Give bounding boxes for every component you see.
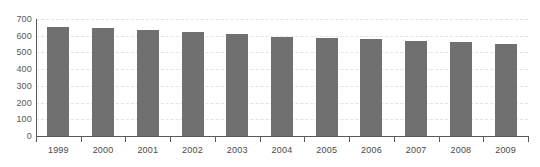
x-tick-label-1999: 1999 [36, 145, 81, 155]
x-tick [260, 136, 261, 142]
x-tick-label-2007: 2007 [394, 145, 439, 155]
x-tick [36, 136, 37, 142]
x-tick [528, 136, 529, 142]
x-axis-line [36, 136, 528, 137]
y-axis-line [36, 19, 37, 136]
x-tick-label-2009: 2009 [483, 145, 528, 155]
y-tick-label: 200 [0, 98, 32, 108]
y-tick-label: 0 [0, 131, 32, 141]
x-tick [349, 136, 350, 142]
y-tick-label: 500 [0, 47, 32, 57]
x-tick [215, 136, 216, 142]
plot-area [36, 19, 528, 136]
bar-chart: 0100200300400500600700 19992000200120022… [0, 0, 540, 167]
y-tick-label: 600 [0, 31, 32, 41]
bar-2008[interactable] [450, 42, 472, 136]
x-tick-label-2006: 2006 [349, 145, 394, 155]
x-tick [125, 136, 126, 142]
bar-2001[interactable] [137, 30, 159, 136]
y-tick-label: 400 [0, 64, 32, 74]
x-tick [439, 136, 440, 142]
x-tick-label-2000: 2000 [81, 145, 126, 155]
x-tick [304, 136, 305, 142]
x-tick-label-2003: 2003 [215, 145, 260, 155]
x-tick-label-2008: 2008 [439, 145, 484, 155]
bar-2006[interactable] [360, 39, 382, 136]
x-tick [483, 136, 484, 142]
x-tick-label-2002: 2002 [170, 145, 215, 155]
bar-2004[interactable] [271, 37, 293, 136]
x-tick-label-2004: 2004 [260, 145, 305, 155]
bar-series [36, 19, 528, 136]
bar-1999[interactable] [47, 27, 69, 136]
x-tick [394, 136, 395, 142]
x-tick [81, 136, 82, 142]
bar-2002[interactable] [182, 32, 204, 136]
y-tick-label: 300 [0, 81, 32, 91]
bar-2007[interactable] [405, 41, 427, 136]
x-tick-label-2001: 2001 [125, 145, 170, 155]
bar-2005[interactable] [316, 38, 338, 136]
y-axis-tick-labels: 0100200300400500600700 [0, 0, 32, 167]
bar-2003[interactable] [226, 34, 248, 136]
x-tick-label-2005: 2005 [304, 145, 349, 155]
y-tick-label: 700 [0, 14, 32, 24]
bar-2000[interactable] [92, 28, 114, 136]
x-tick [170, 136, 171, 142]
y-tick-label: 100 [0, 114, 32, 124]
bar-2009[interactable] [495, 44, 517, 136]
